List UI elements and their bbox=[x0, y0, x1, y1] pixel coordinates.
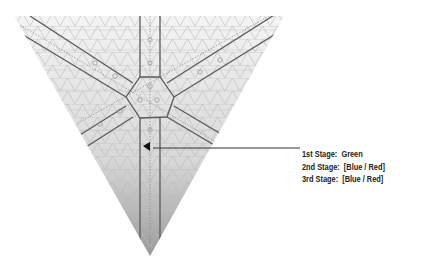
stage-legend: 1st Stage: Green 2nd Stage: [Blue / Red]… bbox=[302, 148, 385, 186]
legend-item-stage-1: 1st Stage: Green bbox=[302, 148, 385, 161]
triangle-diagram bbox=[0, 0, 430, 264]
legend-item-stage-2: 2nd Stage: [Blue / Red] bbox=[302, 161, 385, 174]
diagram-canvas: 1st Stage: Green 2nd Stage: [Blue / Red]… bbox=[0, 0, 430, 264]
legend-item-stage-3: 3rd Stage: [Blue / Red] bbox=[302, 173, 385, 186]
